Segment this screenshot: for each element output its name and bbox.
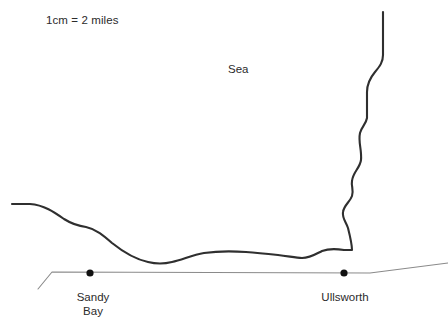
- map-graphics: [0, 0, 448, 330]
- coastline-path: [12, 12, 383, 264]
- marker-ullsworth[interactable]: [340, 269, 347, 276]
- scale-label: 1cm = 2 miles: [46, 13, 119, 27]
- sea-label: Sea: [228, 62, 248, 76]
- place-label-ullsworth: Ullsworth: [313, 290, 377, 304]
- place-label-line1: Sandy: [77, 291, 110, 303]
- place-label-line2: Bay: [63, 304, 123, 318]
- road-path: [38, 263, 448, 289]
- map-canvas: 1cm = 2 miles Sea SandyBay Ullsworth: [0, 0, 448, 330]
- marker-sandy-bay[interactable]: [86, 269, 93, 276]
- place-label-sandy-bay: SandyBay: [63, 290, 123, 319]
